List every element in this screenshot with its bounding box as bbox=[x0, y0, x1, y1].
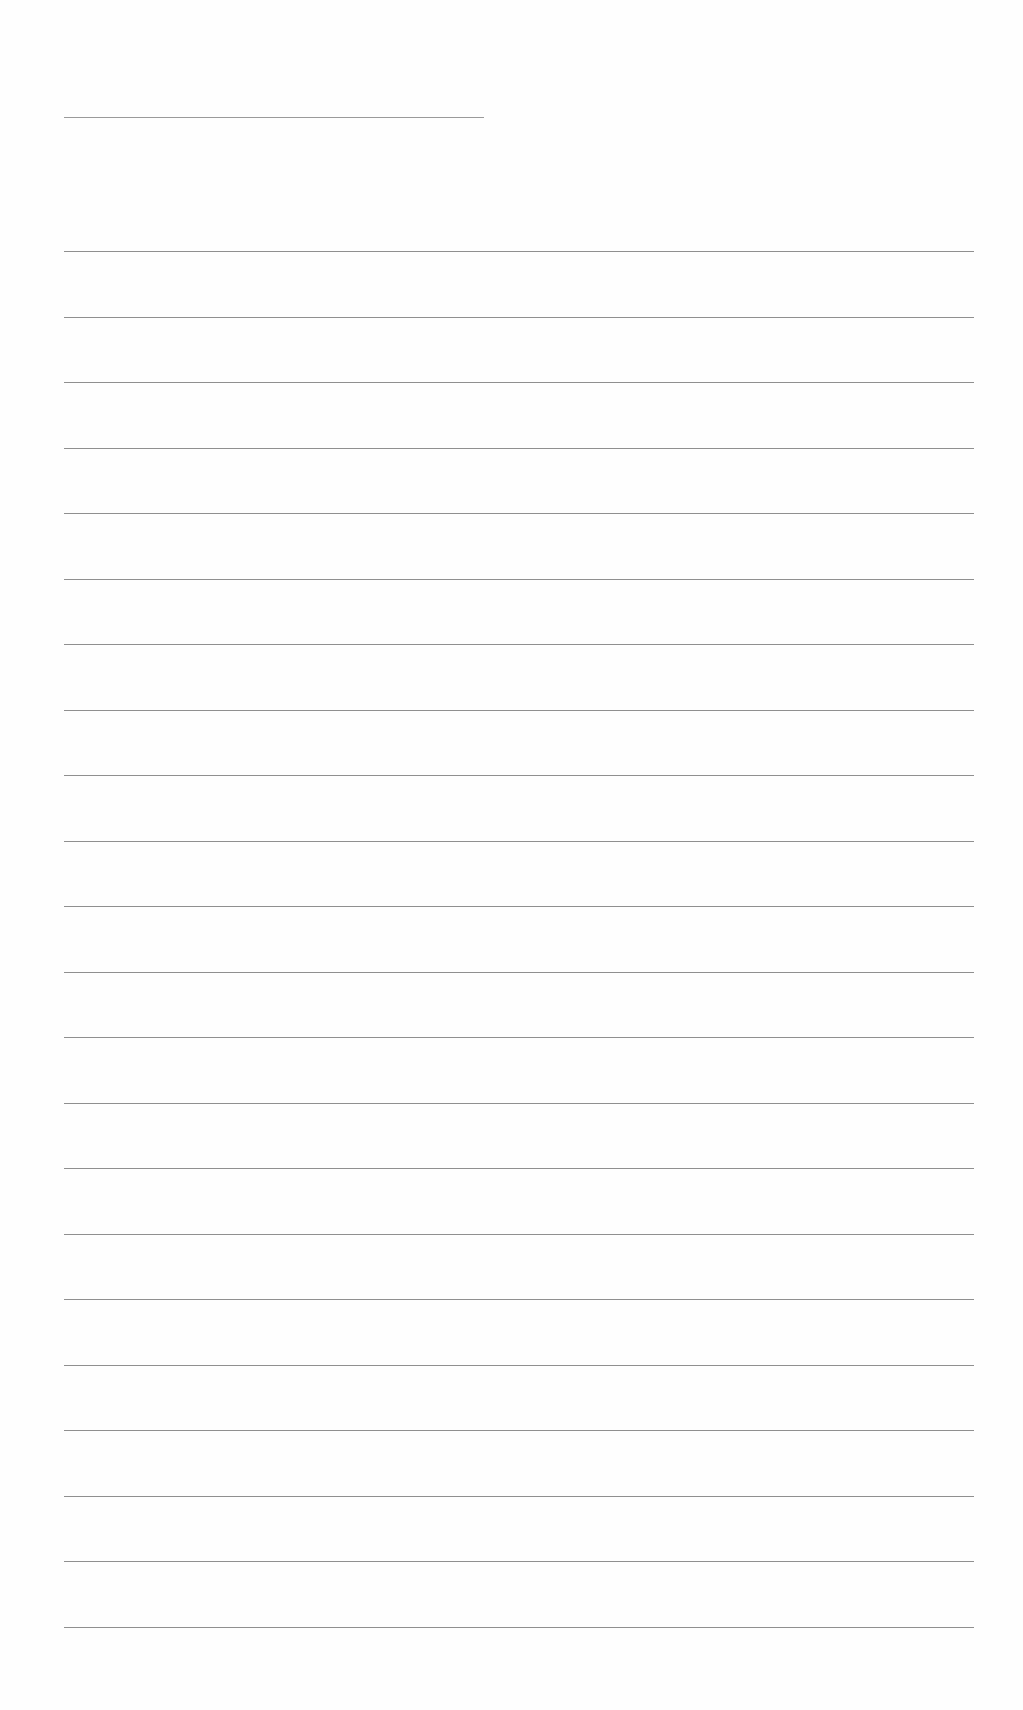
writing-line bbox=[64, 1037, 974, 1038]
writing-line bbox=[64, 1496, 974, 1497]
writing-line bbox=[64, 382, 974, 383]
writing-line bbox=[64, 1627, 974, 1628]
writing-line bbox=[64, 251, 974, 252]
writing-line bbox=[64, 906, 974, 907]
writing-line bbox=[64, 579, 974, 580]
writing-line bbox=[64, 1561, 974, 1562]
writing-line bbox=[64, 1430, 974, 1431]
writing-line bbox=[64, 1168, 974, 1169]
lined-paper-page bbox=[0, 0, 1023, 1710]
writing-line bbox=[64, 841, 974, 842]
writing-line bbox=[64, 1365, 974, 1366]
writing-line bbox=[64, 775, 974, 776]
writing-line bbox=[64, 448, 974, 449]
writing-line bbox=[64, 710, 974, 711]
writing-line bbox=[64, 1103, 974, 1104]
writing-line bbox=[64, 644, 974, 645]
writing-line bbox=[64, 513, 974, 514]
title-line bbox=[64, 117, 484, 118]
writing-line bbox=[64, 1299, 974, 1300]
writing-line bbox=[64, 317, 974, 318]
writing-line bbox=[64, 972, 974, 973]
writing-line bbox=[64, 1234, 974, 1235]
